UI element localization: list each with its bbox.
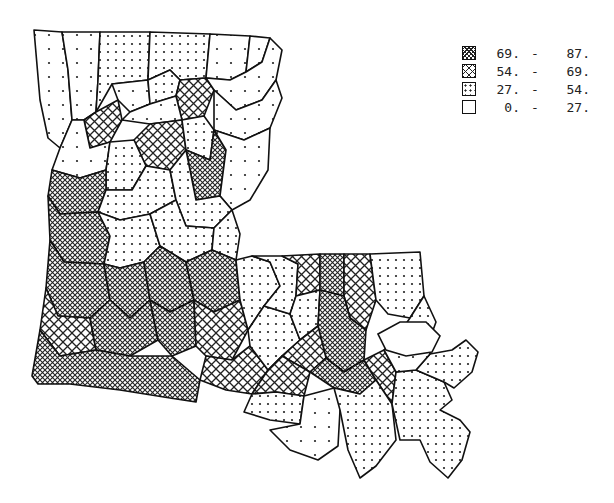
legend-swatch-sparse-dots xyxy=(462,100,476,114)
legend-low: 0. xyxy=(486,100,520,115)
legend-low: 54. xyxy=(486,64,520,79)
parish-p53 xyxy=(334,380,396,478)
legend-dash: - xyxy=(520,82,550,97)
legend: 69. - 87. 54. - 69. 27. - 54. 0. - 27. xyxy=(462,44,590,116)
legend-row-c2: 27. - 54. xyxy=(462,80,590,98)
legend-swatch-dense-dots xyxy=(462,82,476,96)
legend-row-c3: 54. - 69. xyxy=(462,62,590,80)
parish-p54 xyxy=(392,370,470,478)
legend-high: 54. xyxy=(550,82,590,97)
legend-swatch-crosshatch xyxy=(462,64,476,78)
parish-p41 xyxy=(320,254,344,296)
legend-dash: - xyxy=(520,64,550,79)
legend-swatch-dense-crosshatch xyxy=(462,46,476,60)
lake-pontchartrain xyxy=(378,322,440,356)
parish-p34 xyxy=(194,300,248,360)
legend-high: 69. xyxy=(550,64,590,79)
legend-high: 27. xyxy=(550,100,590,115)
parish-p04 xyxy=(148,32,210,80)
legend-low: 69. xyxy=(486,46,520,61)
legend-row-c4: 69. - 87. xyxy=(462,44,590,62)
parish-p09 xyxy=(176,78,214,120)
parish-p20 xyxy=(48,170,106,214)
legend-dash: - xyxy=(520,46,550,61)
parish-layer xyxy=(32,30,478,478)
legend-row-c1: 0. - 27. xyxy=(462,98,590,116)
parish-p51 xyxy=(244,392,304,424)
legend-high: 87. xyxy=(550,46,590,61)
legend-low: 27. xyxy=(486,82,520,97)
legend-dash: - xyxy=(520,100,550,115)
